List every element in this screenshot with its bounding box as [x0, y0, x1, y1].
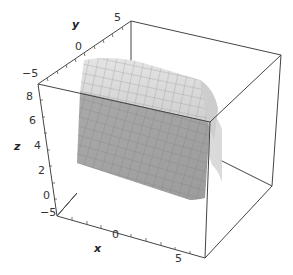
y-axis-label: y: [72, 18, 80, 31]
y-tick-label-0: 0: [75, 40, 82, 53]
x-tick-label-0: 0: [112, 228, 119, 241]
z-axis-label: z: [13, 140, 21, 153]
z-tick-label-6: 6: [29, 114, 36, 127]
x-tick-label-5: 5: [175, 252, 182, 265]
x-axis-label: x: [93, 242, 102, 255]
z-tick-label-8: 8: [26, 90, 33, 103]
z-tick-label-2: 2: [38, 164, 45, 177]
y-tick-label-5: 5: [114, 11, 121, 24]
z-tick-label-0: 0: [43, 189, 50, 202]
x-tick-label-neg5: −5: [40, 206, 56, 219]
y-tick-label-neg5: −5: [22, 67, 38, 80]
z-tick-label-4: 4: [34, 139, 41, 152]
surface-plot-3d: −5 0 5 y 8 6 4 2 0 z −5 0 5 x: [0, 0, 293, 275]
